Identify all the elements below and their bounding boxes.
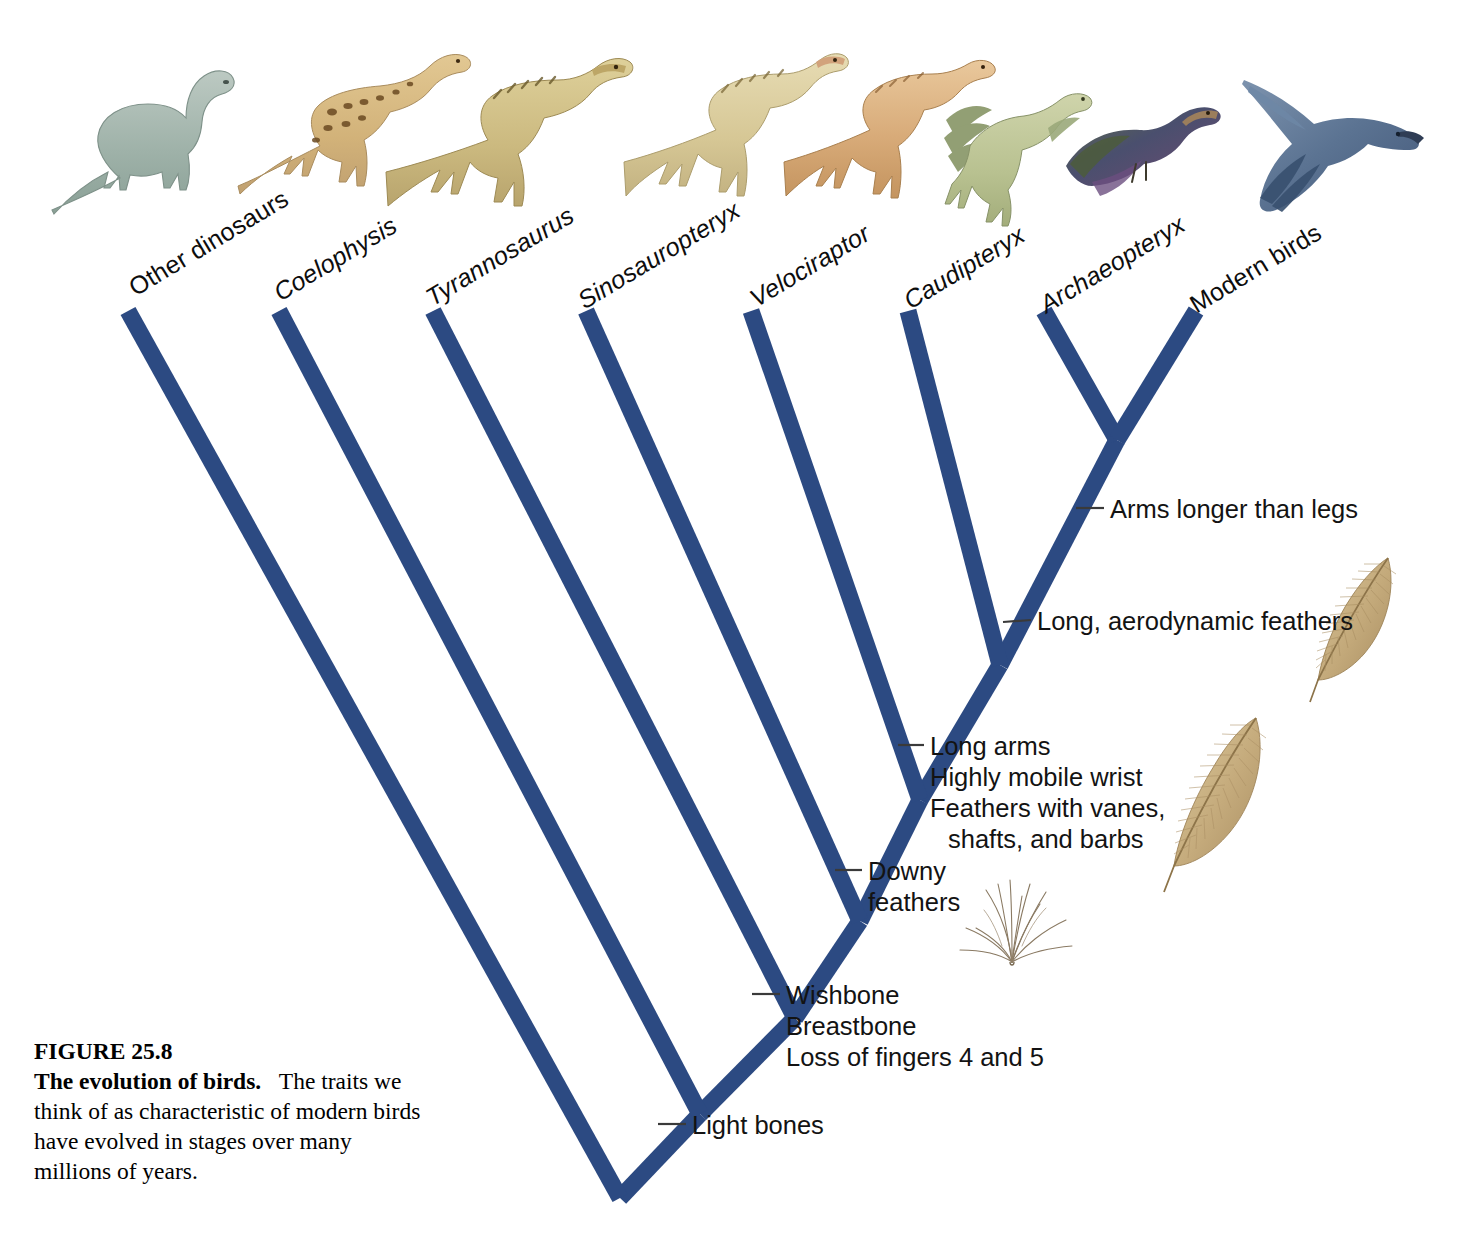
- trait-line: Arms longer than legs: [1110, 494, 1358, 525]
- branch-segment: [700, 1018, 795, 1114]
- trait-line: Light bones: [692, 1110, 824, 1141]
- trait-line: Long arms: [930, 731, 1165, 762]
- figure-root: Other dinosaurs Coelophysis Tyrannosauru…: [0, 0, 1467, 1256]
- figure-caption: FIGURE 25.8 The evolution of birds. The …: [34, 1036, 434, 1186]
- trait-line: Downy: [868, 856, 960, 887]
- branch-segment: [620, 1114, 700, 1198]
- trait-line: Long, aerodynamic feathers: [1037, 606, 1353, 637]
- branch-segment: [1117, 311, 1196, 440]
- branch-segment: [586, 311, 860, 921]
- trait-line: Feathers with vanes,: [930, 793, 1165, 824]
- figure-title: The evolution of birds.: [34, 1068, 261, 1094]
- trait-line: shafts, and barbs: [930, 824, 1165, 855]
- trait-label-long-arms-mobile-wrist-feathers: Long arms Highly mobile wrist Feathers w…: [930, 731, 1165, 855]
- trait-line: Highly mobile wrist: [930, 762, 1165, 793]
- trait-label-light-bones: Light bones: [692, 1110, 824, 1141]
- trait-label-downy-feathers: Downy feathers: [868, 856, 960, 918]
- trait-line: Wishbone: [786, 980, 1044, 1011]
- figure-number: FIGURE 25.8: [34, 1036, 434, 1066]
- branch-segment: [908, 311, 1000, 665]
- trait-line: Breastbone: [786, 1011, 1044, 1042]
- trait-label-arms-longer-than-legs: Arms longer than legs: [1110, 494, 1358, 525]
- trait-line: feathers: [868, 887, 960, 918]
- trait-line: Loss of fingers 4 and 5: [786, 1042, 1044, 1073]
- trait-label-long-aerodynamic-feathers: Long, aerodynamic feathers: [1037, 606, 1353, 637]
- trait-label-wishbone-breastbone-fingers: Wishbone Breastbone Loss of fingers 4 an…: [786, 980, 1044, 1073]
- branch-segment: [1044, 311, 1117, 440]
